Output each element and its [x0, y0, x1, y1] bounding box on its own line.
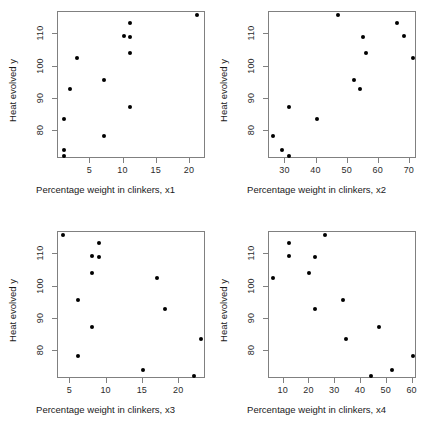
data-point: [128, 105, 132, 109]
data-point: [90, 271, 94, 275]
data-point: [352, 78, 356, 82]
data-point: [97, 241, 101, 245]
x-axis-tick: [89, 158, 90, 163]
scatter-panel-4: 1020304050608090100110Percentage weight …: [211, 220, 422, 440]
y-axis-tick-label: 100: [35, 278, 45, 294]
data-layer: [269, 232, 415, 377]
data-point: [313, 307, 317, 311]
y-axis-tick-label: 80: [35, 345, 45, 355]
y-axis-tick: [263, 350, 268, 351]
data-layer: [269, 12, 415, 157]
y-axis-tick-label: 90: [35, 93, 45, 103]
x-axis-tick: [284, 158, 285, 163]
y-axis-tick-label: 110: [35, 246, 45, 261]
y-axis-tick: [52, 98, 57, 99]
y-axis-tick: [263, 130, 268, 131]
x-axis-title: Percentage weight in clinkers, x2: [211, 184, 422, 195]
data-point: [68, 87, 72, 91]
data-point: [102, 134, 106, 138]
y-axis-title: Heat evolved y: [7, 59, 18, 122]
y-axis-tick-label: 110: [35, 26, 45, 41]
x-axis-tick-label: 5: [67, 385, 72, 395]
x-axis-title: Percentage weight in clinkers, x3: [0, 404, 211, 415]
data-point: [313, 255, 317, 259]
y-axis-tick-label: 110: [246, 246, 256, 261]
y-axis-tick: [263, 253, 268, 254]
y-axis-tick: [52, 286, 57, 287]
data-point: [271, 134, 275, 138]
data-point: [364, 51, 368, 55]
y-axis-tick: [52, 350, 57, 351]
y-axis-tick-label: 80: [246, 345, 256, 355]
x-axis-tick-label: 40: [355, 385, 365, 395]
x-axis-tick-label: 30: [329, 385, 339, 395]
x-axis-tick: [189, 158, 190, 163]
data-point: [390, 368, 394, 372]
x-axis-tick-label: 10: [100, 385, 110, 395]
x-axis-tick-label: 10: [277, 385, 287, 395]
x-axis-tick: [142, 378, 143, 383]
x-axis-tick-label: 20: [303, 385, 313, 395]
data-point: [287, 241, 291, 245]
data-point: [128, 35, 132, 39]
y-axis-tick-label: 80: [35, 125, 45, 135]
data-point: [315, 117, 319, 121]
data-point: [195, 13, 199, 17]
x-axis-tick: [360, 378, 361, 383]
x-axis-tick: [412, 378, 413, 383]
data-point: [336, 13, 340, 17]
data-point: [122, 34, 126, 38]
y-axis-tick-label: 100: [246, 278, 256, 294]
x-axis-tick-label: 50: [341, 165, 351, 175]
plot-area: [268, 231, 416, 378]
data-layer: [58, 232, 204, 377]
data-point: [402, 34, 406, 38]
y-axis-tick: [263, 286, 268, 287]
x-axis-tick: [347, 158, 348, 163]
data-point: [192, 374, 196, 378]
data-point: [287, 105, 291, 109]
x-axis-tick: [386, 378, 387, 383]
x-axis-tick-label: 70: [404, 165, 414, 175]
y-axis-tick-label: 90: [35, 313, 45, 323]
x-axis-tick-label: 20: [173, 385, 183, 395]
data-point: [76, 298, 80, 302]
y-axis-tick: [52, 66, 57, 67]
scatter-panel-2: 30405060708090100110Percentage weight in…: [211, 0, 422, 220]
plot-area: [57, 231, 205, 378]
x-axis-title: Percentage weight in clinkers, x4: [211, 404, 422, 415]
data-point: [102, 78, 106, 82]
y-axis-tick-label: 90: [246, 93, 256, 103]
data-point: [287, 254, 291, 258]
x-axis-tick: [409, 158, 410, 163]
data-point: [76, 354, 80, 358]
x-axis-tick: [283, 378, 284, 383]
y-axis-tick-label: 80: [246, 125, 256, 135]
x-axis-tick-label: 15: [137, 385, 147, 395]
data-point: [341, 298, 345, 302]
x-axis-tick: [123, 158, 124, 163]
data-point: [62, 154, 66, 158]
x-axis-tick-label: 10: [117, 165, 127, 175]
scatter-panel-3: 51015208090100110Percentage weight in cl…: [0, 220, 211, 440]
data-point: [411, 354, 415, 358]
data-point: [62, 148, 66, 152]
x-axis-tick: [316, 158, 317, 163]
x-axis-tick: [334, 378, 335, 383]
x-axis-tick-label: 5: [87, 165, 92, 175]
y-axis-tick: [52, 130, 57, 131]
x-axis-tick-label: 40: [310, 165, 320, 175]
y-axis-tick: [52, 318, 57, 319]
x-axis-tick-label: 60: [373, 165, 383, 175]
x-axis-tick-label: 50: [381, 385, 391, 395]
data-point: [307, 271, 311, 275]
x-axis-tick-label: 60: [406, 385, 416, 395]
plot-area: [268, 11, 416, 158]
data-point: [163, 307, 167, 311]
y-axis-tick-label: 100: [35, 58, 45, 74]
y-axis-title: Heat evolved y: [218, 279, 229, 342]
x-axis-tick: [156, 158, 157, 163]
data-point: [90, 325, 94, 329]
x-axis-title: Percentage weight in clinkers, x1: [0, 184, 211, 195]
x-axis-tick-label: 20: [184, 165, 194, 175]
